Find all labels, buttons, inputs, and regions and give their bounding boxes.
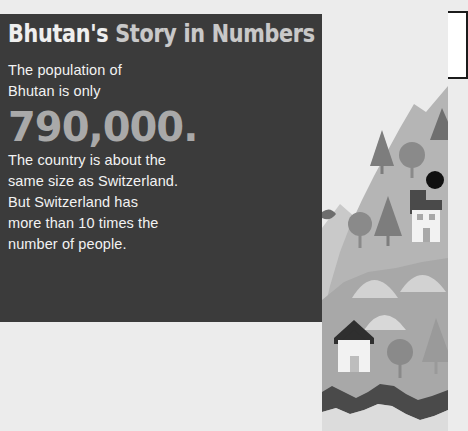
- page-title-part-one: Bhutan's: [8, 19, 108, 48]
- body-line-2: Bhutan is only: [8, 81, 308, 102]
- body-line-3: The country is about the: [8, 150, 308, 171]
- location-marker-dot: [426, 171, 444, 189]
- population-figure: 790,000.: [8, 106, 308, 148]
- body-line-6: more than 10 times the: [8, 213, 308, 234]
- page-title: Bhutan's Story in Numbers: [8, 20, 295, 48]
- info-panel: Bhutan's Story in Numbers The population…: [0, 14, 322, 322]
- body-line-5: But Switzerland has: [8, 192, 308, 213]
- page-title-part-two: Story in Numbers: [108, 19, 314, 48]
- body-line-7: number of people.: [8, 234, 308, 255]
- landscape-illustration: [322, 0, 448, 431]
- body-line-4: same size as Switzerland.: [8, 171, 308, 192]
- body-line-1: The population of: [8, 60, 308, 81]
- panel-body: The population of Bhutan is only 790,000…: [8, 60, 308, 255]
